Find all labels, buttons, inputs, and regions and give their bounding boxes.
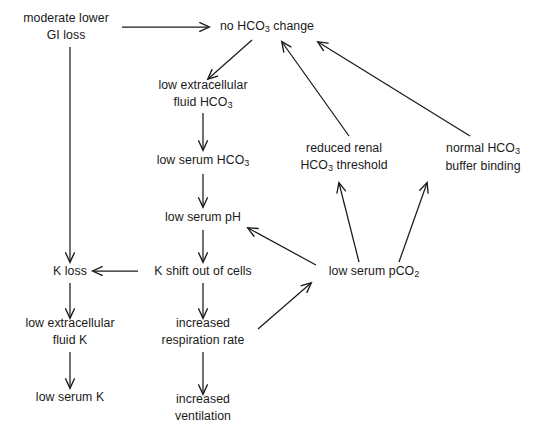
node-low-pco2-line1: low serum pCO2 [329, 263, 420, 281]
node-k-loss-line1: K loss [53, 263, 87, 280]
node-low-ec-k-line2: fluid K [25, 332, 114, 349]
node-k-shift-out-of-cells: K shift out of cells [154, 263, 252, 280]
no-hco3-prefix: no HCO [220, 19, 265, 33]
node-no-hco3-change-line1: no HCO3 change [220, 18, 314, 36]
edge-pco2-to-ph [248, 228, 316, 265]
node-reduced-renal-line1: reduced renal [300, 140, 387, 157]
low-ec-hco3-prefix: fluid HCO [174, 96, 228, 110]
node-gi-loss-line2: GI loss [23, 27, 109, 44]
normal-buffer-subscript: 3 [515, 146, 520, 156]
node-low-extracellular-fluid-k: low extracellular fluid K [25, 315, 114, 350]
low-pco2-prefix: low serum pCO [329, 264, 415, 278]
node-normal-buffer-line2: buffer binding [445, 158, 520, 175]
edge-nochange-to-lowec [208, 40, 252, 79]
reduced-renal-prefix: HCO [300, 159, 328, 173]
edge-renal-to-nochange [282, 42, 349, 136]
node-low-extracellular-fluid-hco3: low extracellular fluid HCO3 [158, 77, 247, 112]
node-increased-respiration-rate: increased respiration rate [161, 315, 244, 350]
node-normal-hco3-buffer-binding: normal HCO3 buffer binding [445, 140, 520, 175]
low-serum-hco3-subscript: 3 [244, 158, 249, 168]
node-low-serum-k: low serum K [36, 389, 104, 406]
edge-pco2-to-renal [339, 183, 359, 262]
node-low-serum-ph-line1: low serum pH [165, 209, 241, 226]
node-k-shift-line1: K shift out of cells [154, 263, 252, 280]
edge-buffer-to-nochange [318, 42, 470, 136]
node-low-serum-ph: low serum pH [165, 209, 241, 226]
normal-buffer-prefix: normal HCO [446, 141, 515, 155]
node-no-hco3-change: no HCO3 change [220, 18, 314, 36]
reduced-renal-suffix: threshold [333, 159, 388, 173]
node-incr-vent-line2: ventilation [175, 408, 231, 425]
node-low-serum-k-line1: low serum K [36, 389, 104, 406]
low-ec-hco3-subscript: 3 [227, 101, 232, 111]
node-low-serum-hco3: low serum HCO3 [157, 152, 250, 170]
node-normal-buffer-line1: normal HCO3 [445, 140, 520, 158]
node-low-serum-pco2: low serum pCO2 [329, 263, 420, 281]
node-incr-resp-line1: increased [161, 315, 244, 332]
low-serum-hco3-prefix: low serum HCO [157, 153, 245, 167]
low-pco2-subscript: 2 [414, 269, 419, 279]
node-low-ec-hco3-line1: low extracellular [158, 77, 247, 94]
node-low-ec-k-line1: low extracellular [25, 315, 114, 332]
node-reduced-renal-line2: HCO3 threshold [300, 158, 387, 176]
node-gi-loss-line1: moderate lower [23, 10, 109, 27]
node-incr-resp-line2: respiration rate [161, 332, 244, 349]
node-gi-loss: moderate lower GI loss [23, 10, 109, 45]
edge-resp-to-pco2 [258, 283, 311, 329]
node-low-ec-hco3-line2: fluid HCO3 [158, 95, 247, 113]
no-hco3-suffix: change [270, 19, 314, 33]
node-low-serum-hco3-line1: low serum HCO3 [157, 152, 250, 170]
edge-pco2-to-buffer [399, 183, 427, 262]
node-reduced-renal-hco3-threshold: reduced renal HCO3 threshold [300, 140, 387, 175]
node-k-loss: K loss [53, 263, 87, 280]
flowchart-diagram: moderate lower GI loss no HCO3 change lo… [0, 0, 538, 439]
flowchart-edges-layer [0, 0, 538, 439]
node-incr-vent-line1: increased [175, 391, 231, 408]
node-increased-ventilation: increased ventilation [175, 391, 231, 426]
